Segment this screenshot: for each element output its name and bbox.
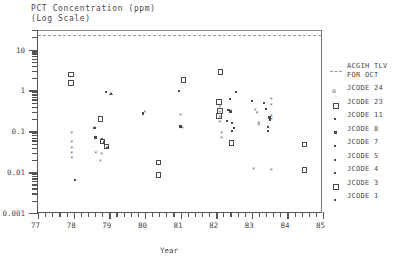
data-point <box>231 122 233 124</box>
x-tick-minor <box>138 212 139 217</box>
y-tick-minor <box>32 135 38 136</box>
data-point <box>218 69 223 74</box>
data-point <box>68 72 73 77</box>
y-axis-tick-label: 10 <box>0 46 25 55</box>
x-tick-major <box>323 212 324 219</box>
y-tick-minor <box>32 92 38 93</box>
x-axis-title: Year <box>160 246 178 255</box>
y-tick-minor <box>32 133 38 134</box>
y-tick-minor <box>32 78 38 79</box>
y-tick-minor <box>32 56 38 57</box>
y-tick-major <box>29 213 38 214</box>
dot-icon <box>330 114 342 122</box>
legend-item: JCODE 1 <box>330 192 405 206</box>
y-tick-minor <box>32 184 38 185</box>
dot-icon <box>330 168 342 176</box>
data-point <box>267 126 269 128</box>
data-point: × <box>269 97 273 101</box>
y-tick-minor <box>32 153 38 154</box>
data-point: × <box>94 151 98 155</box>
data-point: × <box>99 152 103 156</box>
x-axis-tick-label: 83 <box>245 221 254 230</box>
data-point <box>179 125 182 128</box>
data-point: × <box>219 136 223 140</box>
data-point: × <box>269 103 273 107</box>
y-tick-minor <box>32 148 38 149</box>
x-tick-minor <box>159 212 160 217</box>
x-axis-tick-label: 85 <box>316 221 325 230</box>
legend-item: JCODE 8 <box>330 125 405 139</box>
x-tick-minor <box>273 212 274 217</box>
x-tick-minor <box>173 212 174 217</box>
x-tick-minor <box>316 212 317 217</box>
y-tick-minor <box>32 107 38 108</box>
x-tick-minor <box>259 212 260 217</box>
y-tick-minor <box>32 112 38 113</box>
x-axis-tick-label: 77 <box>31 221 40 230</box>
data-point <box>156 172 161 177</box>
x-axis-tick-label: 78 <box>67 221 76 230</box>
y-tick-minor <box>32 66 38 67</box>
data-point: × <box>252 167 256 171</box>
chart-legend: ACGIH TLVFOR OCT☒JCODE 24JCODE 23JCODE 1… <box>330 62 405 206</box>
data-point: × <box>70 156 74 160</box>
legend-label: JCODE 8 <box>347 125 379 133</box>
x-tick-minor <box>88 212 89 217</box>
y-axis-tick-label: 0.01 <box>0 168 25 177</box>
data-point <box>229 98 231 100</box>
legend-item: JCODE 7 <box>330 138 405 152</box>
legend-item: ACGIH TLVFOR OCT <box>330 62 405 84</box>
x-tick-minor <box>81 212 82 217</box>
data-point <box>229 110 232 113</box>
x-tick-major <box>145 212 146 219</box>
small-square-icon <box>330 128 342 136</box>
data-point <box>156 160 161 165</box>
data-point <box>93 127 96 130</box>
x-tick-minor <box>95 212 96 217</box>
legend-label: JCODE 4 <box>347 165 379 173</box>
chart-screenshot: PCT Concentration (ppm) (Log Scale) ××××… <box>0 0 405 264</box>
x-tick-minor <box>59 212 60 217</box>
x-tick-major <box>38 212 39 219</box>
data-point <box>251 100 253 102</box>
legend-item: JCODE 3 <box>330 179 405 193</box>
x-axis-tick-label: 81 <box>174 221 183 230</box>
data-point: × <box>218 120 222 124</box>
y-tick-minor <box>32 37 38 38</box>
x-tick-minor <box>166 212 167 217</box>
x-tick-minor <box>223 212 224 217</box>
data-point <box>94 136 97 139</box>
legend-item: JCODE 5 <box>330 152 405 166</box>
data-point: × <box>255 111 259 115</box>
x-tick-minor <box>116 212 117 217</box>
legend-label: ACGIH TLV <box>347 62 388 70</box>
data-point <box>269 119 271 121</box>
y-tick-minor <box>32 160 38 161</box>
y-tick-minor <box>32 53 38 54</box>
x-tick-minor <box>45 212 46 217</box>
data-point <box>226 120 228 122</box>
x-tick-minor <box>302 212 303 217</box>
data-point <box>302 167 307 172</box>
y-tick-minor <box>32 59 38 60</box>
y-tick-minor <box>32 144 38 145</box>
x-tick-minor <box>280 212 281 217</box>
x-marker-icon: ☒ <box>330 87 342 95</box>
x-tick-minor <box>195 212 196 217</box>
chart-title: PCT Concentration (ppm) <box>31 4 156 13</box>
y-tick-minor <box>32 99 38 100</box>
data-point: × <box>70 151 74 155</box>
x-tick-major <box>216 212 217 219</box>
data-point <box>105 91 107 93</box>
data-point <box>101 138 103 140</box>
data-point: × <box>70 131 74 135</box>
y-tick-minor <box>32 51 38 52</box>
data-point <box>181 77 186 82</box>
x-tick-minor <box>102 212 103 217</box>
legend-label-line2: FOR OCT <box>347 71 379 79</box>
legend-item: JCODE 11 <box>330 111 405 125</box>
dot-icon <box>330 195 342 203</box>
x-tick-minor <box>188 212 189 217</box>
y-tick-minor <box>32 181 38 182</box>
y-tick-minor <box>32 97 38 98</box>
